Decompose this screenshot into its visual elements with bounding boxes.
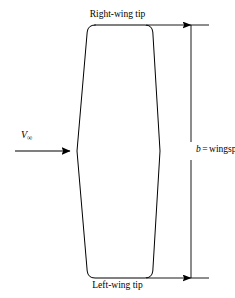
wing-planform-figure: Right-wing tip Left-wing tip b=wingspan … bbox=[0, 0, 235, 298]
velocity-subscript-infinity: ∞ bbox=[27, 133, 32, 142]
wingspan-word: wingspan bbox=[209, 144, 235, 154]
wing-planform-outline bbox=[77, 25, 160, 278]
label-left-wing-tip: Left-wing tip bbox=[92, 281, 142, 291]
label-freestream-velocity: V∞ bbox=[21, 130, 32, 142]
label-wingspan: b=wingspan bbox=[196, 145, 235, 155]
wingspan-equals-sign: = bbox=[201, 144, 209, 154]
label-right-wing-tip: Right-wing tip bbox=[90, 10, 146, 20]
